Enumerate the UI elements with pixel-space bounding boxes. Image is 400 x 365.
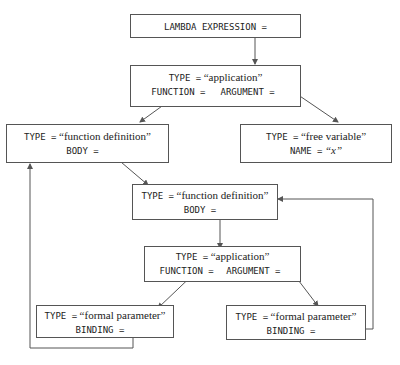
- function-key: FUNCTION =: [160, 266, 214, 276]
- name-value: “x”: [325, 144, 342, 156]
- type-key: TYPE =: [24, 132, 57, 142]
- type-value: “formal parameter”: [80, 309, 166, 321]
- free-variable-node: TYPE = “free variable” NAME = “x”: [240, 124, 392, 163]
- type-key: TYPE =: [169, 73, 202, 83]
- type-value: “function definition”: [59, 130, 151, 142]
- type-key: TYPE =: [266, 132, 299, 142]
- formal-parameter-node-1: TYPE = “formal parameter” BINDING =: [36, 305, 174, 338]
- binding-key: BINDING =: [267, 326, 316, 336]
- function-definition-node-2: TYPE = “function definition” BODY =: [132, 184, 278, 220]
- type-value: “formal parameter”: [271, 310, 357, 322]
- function-definition-node-1: TYPE = “function definition” BODY =: [6, 124, 169, 163]
- type-key: TYPE =: [236, 312, 269, 322]
- lambda-expression-node: LAMBDA EXPRESSION =: [130, 14, 301, 38]
- formal-parameter-node-2: TYPE = “formal parameter” BINDING =: [226, 305, 366, 340]
- body-key: BODY =: [184, 205, 217, 215]
- application-node-2: TYPE = “application” FUNCTION = ARGUMENT…: [144, 246, 301, 282]
- argument-key: ARGUMENT =: [221, 87, 275, 97]
- function-key: FUNCTION =: [151, 87, 205, 97]
- type-key: TYPE =: [142, 191, 175, 201]
- body-key: BODY =: [66, 146, 99, 156]
- type-value: “application”: [211, 250, 270, 262]
- type-value: “function definition”: [177, 189, 269, 201]
- argument-key: ARGUMENT =: [226, 266, 280, 276]
- type-value: “application”: [204, 71, 263, 83]
- binding-key: BINDING =: [76, 325, 125, 335]
- name-key: NAME =: [290, 146, 323, 156]
- root-label: LAMBDA EXPRESSION =: [164, 22, 267, 32]
- application-node-1: TYPE = “application” FUNCTION = ARGUMENT…: [130, 65, 301, 107]
- type-key: TYPE =: [45, 311, 78, 321]
- type-key: TYPE =: [176, 252, 209, 262]
- type-value: “free variable”: [301, 130, 366, 142]
